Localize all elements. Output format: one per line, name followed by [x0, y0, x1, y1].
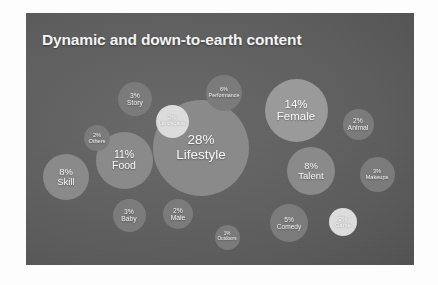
bubble-label: Talent	[298, 171, 323, 181]
presentation-slide: Dynamic and down-to-earth content 28%Lif…	[26, 13, 414, 265]
bubble-label: Comedy	[277, 223, 302, 230]
bubble-game: 2%Game	[329, 208, 357, 236]
bubble-percent: 3%	[130, 92, 140, 99]
page-title: Dynamic and down-to-earth content	[42, 31, 301, 49]
bubble-label: Landscape	[159, 121, 185, 127]
bubble-label: Skill	[57, 177, 74, 187]
bubble-percent: 3%	[124, 208, 134, 215]
bubble-label: Performance	[209, 93, 240, 99]
bubble-label: Others	[89, 138, 106, 144]
bubble-label: Makeups	[366, 174, 389, 180]
bubble-percent: 5%	[284, 216, 294, 223]
bubble-others: 2%Others	[84, 125, 110, 151]
bubble-percent: 2%	[173, 207, 183, 214]
bubble-comedy: 5%Comedy	[270, 204, 308, 242]
bubble-label: Outdoors	[218, 237, 237, 242]
bubble-story: 3%Story	[118, 82, 152, 116]
bubble-percent: 28%	[187, 133, 214, 148]
bubble-landscape: 3%Landscape	[156, 105, 189, 138]
bubble-animal: 2%Animal	[343, 109, 374, 140]
bubble-label: Female	[277, 110, 315, 122]
bubble-label: Lifestyle	[176, 148, 226, 163]
bubble-makeups: 3%Makeups	[360, 157, 395, 192]
bubble-male: 2%Male	[163, 199, 193, 229]
bubble-baby: 3%Baby	[113, 199, 146, 232]
bubble-label: Game	[335, 222, 351, 228]
screenshot-root: Dynamic and down-to-earth content 28%Lif…	[0, 0, 438, 285]
bubble-female: 14%Female	[265, 79, 328, 142]
bubble-percent: 14%	[284, 98, 307, 110]
bubble-label: Animal	[348, 124, 369, 131]
bubble-label: Food	[112, 160, 136, 171]
bubble-performance: 6%Performance	[206, 75, 242, 111]
bubble-label: Male	[171, 214, 186, 221]
bubble-percent: 2%	[353, 117, 363, 124]
bubble-talent: 8%Talent	[287, 147, 335, 195]
bubble-label: Baby	[121, 215, 137, 222]
bubble-label: Story	[127, 99, 143, 106]
bubble-outdoors: 1%Outdoors	[215, 225, 240, 250]
bubble-chart: 28%Lifestyle14%Female11%Food8%Skill8%Tal…	[26, 13, 414, 265]
bubble-skill: 8%Skill	[43, 154, 89, 200]
